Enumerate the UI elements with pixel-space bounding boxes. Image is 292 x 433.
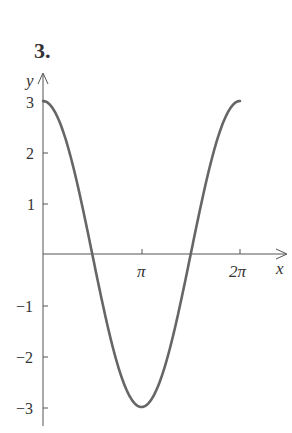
cosine-graph: 3. y x π 2π 3 2 1 −1 −2 −3	[0, 0, 292, 433]
y-tick-label-neg3: −3	[16, 400, 33, 417]
y-tick-label-3: 3	[26, 94, 34, 111]
x-tick-label-pi: π	[137, 262, 146, 281]
y-tick-label-1: 1	[27, 196, 35, 213]
y-axis-label: y	[24, 71, 34, 90]
problem-number: 3.	[34, 38, 51, 63]
y-tick-label-neg2: −2	[16, 349, 33, 366]
x-tick-label-2pi: 2π	[229, 262, 247, 281]
y-tick-label-2: 2	[26, 145, 34, 162]
y-tick-label-neg1: −1	[16, 298, 33, 315]
x-axis-label: x	[275, 259, 284, 278]
